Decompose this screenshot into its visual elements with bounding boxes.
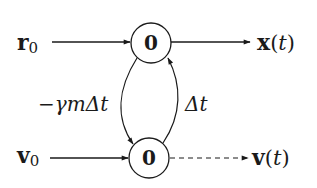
bottom-node: 0	[129, 138, 169, 178]
curved-arrow-bottom-to-top	[163, 58, 178, 143]
bottom-node-label: 0	[142, 146, 156, 170]
top-node-label: 0	[144, 31, 158, 55]
edge-label-delta-t: Δt	[184, 92, 208, 116]
input-label-r0: r0	[17, 29, 38, 57]
edge-label-minus-gamma-m-delta-t: −γmΔt	[38, 92, 109, 116]
output-label-v-t: v(t)	[251, 144, 290, 170]
curved-arrow-top-to-bottom	[121, 58, 137, 144]
output-label-x-t: x(t)	[257, 29, 295, 55]
top-node: 0	[131, 23, 171, 63]
input-label-v0: v0	[16, 142, 39, 170]
signal-flow-diagram: r0 0 x(t) −γmΔt Δt v0 0 v(t)	[0, 0, 317, 188]
